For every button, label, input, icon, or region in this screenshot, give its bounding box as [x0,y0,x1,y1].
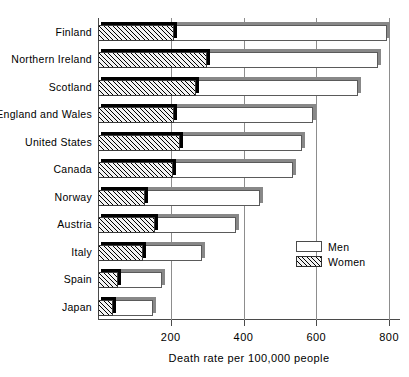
legend-item-men: Men [296,240,366,253]
chart-legend: Men Women [296,240,366,270]
bar-row: Canada [98,157,400,183]
tick-mark-200 [171,320,172,326]
legend-swatch-men-icon [296,241,322,252]
bar-women [98,52,207,68]
tick-label-200: 200 [161,331,181,343]
bar-row: Norway [98,185,400,211]
category-label: England and Wales [0,108,92,120]
bar-women [98,245,143,261]
category-label: Italy [71,246,92,258]
category-label: Spain [64,273,92,285]
bar-women [98,190,145,206]
tick-mark-400 [244,320,245,326]
bar-row: Spain [98,267,400,293]
bar-women [98,107,174,123]
bar-women [98,217,155,233]
plot-area: 200400600800 FinlandNorthern IrelandScot… [98,18,400,320]
bar-women [98,135,180,151]
tick-label-800: 800 [379,331,399,343]
bar-women [98,300,113,316]
bar-row: Japan [98,295,400,321]
bar-row: Austria [98,212,400,238]
bar-row: Northern Ireland [98,47,400,73]
category-label: Scotland [49,81,92,93]
category-label: United States [25,136,92,148]
bar-row: Scotland [98,75,400,101]
x-axis-title: Death rate per 100,000 people [98,352,400,364]
bar-women [98,162,173,178]
chart-root: 200400600800 FinlandNorthern IrelandScot… [0,0,409,377]
tick-mark-600 [316,320,317,326]
category-label: Austria [57,218,92,230]
category-label: Japan [62,301,92,313]
bar-row: Finland [98,20,400,46]
bar-row: United States [98,130,400,156]
bar-women [98,25,174,41]
tick-label-600: 600 [306,331,326,343]
bar-women [98,272,118,288]
legend-swatch-women-icon [296,256,322,267]
tick-label-400: 400 [234,331,254,343]
tick-mark-800 [389,320,390,326]
category-label: Canada [53,163,92,175]
legend-label-women: Women [328,256,366,268]
legend-label-men: Men [328,241,349,253]
category-label: Norway [55,191,92,203]
legend-item-women: Women [296,255,366,268]
category-label: Finland [55,26,92,38]
category-label: Northern Ireland [11,53,92,65]
bar-row: England and Wales [98,102,400,128]
bar-women [98,80,196,96]
